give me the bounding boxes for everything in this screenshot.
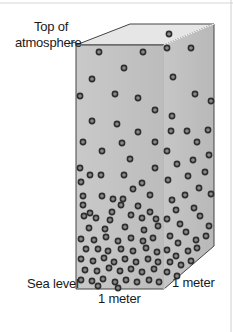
air-molecule [103, 234, 108, 239]
air-molecule [194, 139, 199, 144]
air-molecule [105, 248, 110, 253]
air-molecule [128, 266, 133, 271]
top-of-atmosphere-label-line2: atmosphere [15, 36, 82, 50]
air-molecule [170, 74, 175, 79]
air-molecule [153, 216, 158, 221]
air-molecule [177, 221, 182, 226]
air-molecule [206, 223, 211, 228]
air-molecule [190, 157, 195, 162]
air-molecule [100, 276, 105, 281]
air-molecule [152, 139, 157, 144]
air-molecule [208, 98, 213, 103]
air-molecule [140, 49, 145, 54]
air-molecule [77, 165, 82, 170]
air-molecule [147, 192, 152, 197]
air-molecule [192, 91, 197, 96]
air-molecule [175, 240, 180, 245]
air-molecule [114, 121, 119, 126]
air-molecule [102, 226, 107, 231]
air-molecule [112, 279, 117, 284]
top-of-atmosphere-label-line1: Top of [34, 20, 68, 34]
air-molecule [152, 107, 157, 112]
air-molecule [90, 258, 95, 263]
air-molecule [80, 139, 85, 144]
air-molecule [167, 233, 172, 238]
air-molecule [174, 161, 179, 166]
air-molecule [166, 31, 171, 36]
air-molecule [121, 172, 126, 177]
air-molecule [127, 156, 132, 161]
air-molecule [99, 193, 104, 198]
air-molecule [188, 258, 193, 263]
sea-level-label: Sea level [27, 277, 79, 291]
air-molecule [128, 212, 133, 217]
air-molecule [123, 277, 128, 282]
air-molecule [197, 213, 202, 218]
diagram-frame: Top of atmosphere Sea level 1 meter 1 me… [0, 0, 233, 332]
air-molecule [87, 210, 92, 215]
air-molecule [155, 223, 160, 228]
air-molecule [208, 191, 213, 196]
air-molecule [80, 193, 85, 198]
air-molecule [141, 227, 146, 232]
air-molecule [147, 209, 152, 214]
air-molecule [98, 172, 103, 177]
air-molecule [94, 268, 99, 273]
air-molecule [173, 253, 178, 258]
air-molecule [183, 229, 188, 234]
air-molecule [143, 245, 148, 250]
air-molecule [164, 269, 169, 274]
air-molecule [115, 285, 120, 290]
air-molecule [164, 216, 169, 221]
air-molecule [154, 249, 159, 254]
air-molecule [101, 255, 106, 260]
air-molecule [164, 45, 169, 50]
air-molecule [107, 217, 112, 222]
air-molecule [89, 278, 94, 283]
air-molecule [91, 237, 96, 242]
air-molecule [185, 173, 190, 178]
air-molecule [168, 128, 173, 133]
air-molecule [182, 192, 187, 197]
air-molecule [130, 248, 135, 253]
air-molecule [106, 265, 111, 270]
air-molecule [93, 215, 98, 220]
air-molecule [128, 235, 133, 240]
air-molecule [152, 165, 157, 170]
air-molecule [196, 185, 201, 190]
air-molecule [99, 148, 104, 153]
air-molecule [110, 196, 115, 201]
air-molecule [86, 225, 91, 230]
air-molecule [135, 129, 140, 134]
air-molecule [167, 259, 172, 264]
air-molecule [78, 277, 83, 282]
air-molecule [178, 262, 183, 267]
air-molecule [82, 267, 87, 272]
air-molecule [169, 113, 174, 118]
air-molecule [111, 259, 116, 264]
width-dimension-label: 1 meter [98, 292, 141, 306]
air-molecule [89, 118, 94, 123]
air-molecule [139, 180, 144, 185]
air-molecule [164, 148, 169, 153]
air-molecule [202, 169, 207, 174]
air-molecule [134, 279, 139, 284]
air-molecule [140, 238, 145, 243]
air-molecule [150, 235, 155, 240]
air-molecule [145, 256, 150, 261]
air-molecule [89, 76, 94, 81]
air-molecule [193, 237, 198, 242]
air-molecule [139, 215, 144, 220]
air-molecule [130, 186, 135, 191]
air-molecule [185, 248, 190, 253]
air-molecule [203, 233, 208, 238]
air-molecule [155, 259, 160, 264]
air-molecule [165, 177, 170, 182]
air-molecule [115, 238, 120, 243]
air-molecule [77, 93, 82, 98]
air-molecule [205, 127, 210, 132]
air-molecule [118, 202, 123, 207]
air-molecule [146, 277, 151, 282]
air-molecule [112, 91, 117, 96]
air-molecule [135, 203, 140, 208]
